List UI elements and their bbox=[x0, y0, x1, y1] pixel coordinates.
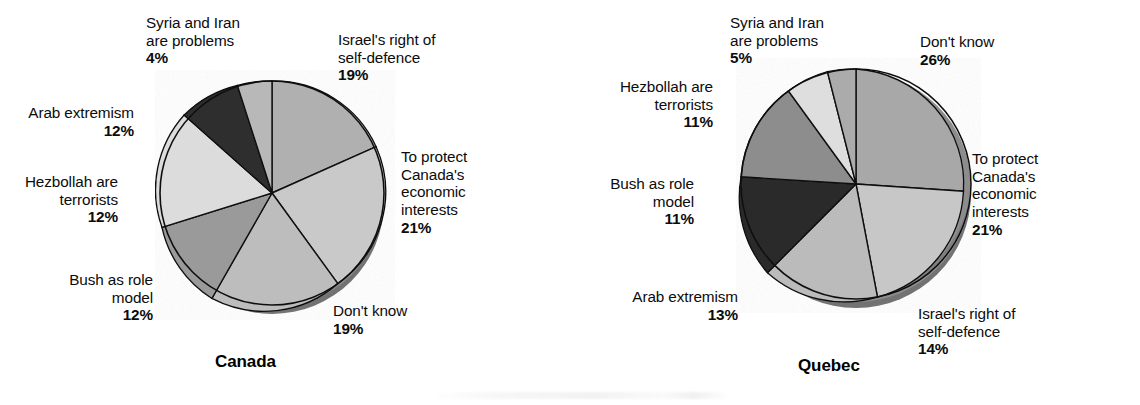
callout-israel-self-defence: Israel's right of self-defence 19% bbox=[338, 31, 435, 84]
callout-line: model bbox=[0, 289, 153, 307]
chart-panel-quebec: Syria and Iran are problems 5% Hezbollah… bbox=[570, 0, 1140, 405]
callout-percent: 5% bbox=[730, 49, 824, 67]
callout-hezbollah-terrorists: Hezbollah are terrorists 11% bbox=[570, 78, 713, 131]
callout-line: Israel's right of bbox=[918, 305, 1015, 323]
chart-title-canada: Canada bbox=[215, 352, 276, 372]
slice-dontknow bbox=[856, 69, 964, 191]
callout-percent: 4% bbox=[146, 49, 240, 67]
callout-line: economic bbox=[972, 185, 1038, 203]
callout-line: Israel's right of bbox=[338, 31, 435, 49]
pie-chart-figure: Syria and Iran are problems 4% Arab extr… bbox=[0, 0, 1140, 405]
callout-economic-interests: To protect Canada's economic interests 2… bbox=[401, 148, 467, 237]
callout-line: Don't know bbox=[920, 33, 994, 51]
callout-line: Hezbollah are bbox=[0, 173, 118, 191]
callout-syria-and-iran: Syria and Iran are problems 4% bbox=[146, 14, 240, 67]
callout-line: Bush as role bbox=[570, 175, 694, 193]
callout-line: Syria and Iran bbox=[730, 14, 824, 32]
scan-artifact bbox=[430, 392, 730, 399]
callout-dont-know: Don't know 19% bbox=[333, 302, 407, 337]
chart-title-quebec: Quebec bbox=[798, 356, 860, 376]
callout-percent: 21% bbox=[401, 219, 467, 237]
callout-percent: 12% bbox=[0, 306, 153, 324]
callout-line: Canada's bbox=[972, 168, 1038, 186]
pie-quebec-svg bbox=[736, 58, 981, 313]
callout-line: Canada's bbox=[401, 166, 467, 184]
callout-percent: 21% bbox=[972, 221, 1038, 239]
callout-percent: 19% bbox=[333, 320, 407, 338]
callout-hezbollah-terrorists: Hezbollah are terrorists 12% bbox=[0, 173, 118, 226]
callout-line: terrorists bbox=[570, 96, 713, 114]
callout-percent: 12% bbox=[0, 208, 118, 226]
callout-percent: 11% bbox=[570, 210, 694, 228]
callout-line: Hezbollah are bbox=[570, 78, 713, 96]
callout-economic-interests: To protect Canada's economic interests 2… bbox=[972, 150, 1038, 239]
pie-quebec bbox=[736, 58, 981, 313]
pie-canada bbox=[155, 70, 395, 320]
callout-percent: 26% bbox=[920, 51, 994, 69]
callout-line: terrorists bbox=[0, 191, 118, 209]
pie-quebec-slices bbox=[739, 69, 971, 302]
callout-arab-extremism: Arab extremism 12% bbox=[0, 104, 134, 139]
callout-percent: 19% bbox=[338, 66, 435, 84]
callout-percent: 12% bbox=[0, 122, 134, 140]
callout-line: are problems bbox=[730, 32, 824, 50]
callout-line: Don't know bbox=[333, 302, 407, 320]
callout-line: Bush as role bbox=[0, 271, 153, 289]
callout-line: Arab extremism bbox=[0, 104, 134, 122]
leader-israel bbox=[322, 55, 332, 68]
callout-line: To protect bbox=[401, 148, 467, 166]
callout-line: self-defence bbox=[338, 49, 435, 67]
callout-line: self-defence bbox=[918, 323, 1015, 341]
callout-line: interests bbox=[972, 203, 1038, 221]
callout-bush-role-model: Bush as role model 12% bbox=[0, 271, 153, 324]
callout-line: are problems bbox=[146, 32, 240, 50]
callout-line: Arab extremism bbox=[570, 288, 738, 306]
callout-line: Syria and Iran bbox=[146, 14, 240, 32]
callout-syria-and-iran: Syria and Iran are problems 5% bbox=[730, 14, 824, 67]
pie-canada-svg bbox=[155, 70, 395, 320]
callout-percent: 13% bbox=[570, 306, 738, 324]
callout-line: To protect bbox=[972, 150, 1038, 168]
chart-panel-canada: Syria and Iran are problems 4% Arab extr… bbox=[0, 0, 570, 405]
callout-line: model bbox=[570, 193, 694, 211]
callout-israel-self-defence: Israel's right of self-defence 14% bbox=[918, 305, 1015, 358]
callout-arab-extremism: Arab extremism 13% bbox=[570, 288, 738, 323]
callout-line: economic bbox=[401, 183, 467, 201]
callout-bush-role-model: Bush as role model 11% bbox=[570, 175, 694, 228]
callout-dont-know: Don't know 26% bbox=[920, 33, 994, 68]
callout-line: interests bbox=[401, 201, 467, 219]
callout-percent: 14% bbox=[918, 340, 1015, 358]
callout-percent: 11% bbox=[570, 113, 713, 131]
